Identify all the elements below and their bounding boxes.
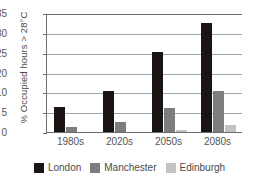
y-axis-tick-label: 0 [0,128,7,138]
bar-manchester-2050s [164,108,175,132]
legend-label: Edinburgh [180,163,226,173]
legend-label: Manchester [104,163,156,173]
y-axis-tick-label: 25 [0,49,7,59]
bar-groups [47,14,242,132]
y-axis-title: % Occupied hours > 28°C [18,0,29,138]
bar-london-2020s [103,91,114,132]
legend-label: London [48,163,81,173]
bar-edinburgh-2050s [176,130,187,132]
bar-london-1980s [54,107,65,133]
bar-edinburgh-2080s [225,125,236,132]
bar-manchester-2020s [115,122,126,132]
y-axis-tick-label: 30 [0,29,7,39]
bar-chart-figure: % Occupied hours > 28°C 051020253035 198… [0,0,259,191]
legend-swatch-edinburgh [166,163,176,173]
bar-group [47,14,96,132]
legend-swatch-manchester [90,163,100,173]
bar-group [96,14,145,132]
bar-group [145,14,194,132]
y-axis-tick-mark [43,133,47,134]
bar-manchester-1980s [66,127,77,132]
legend-swatch-london [34,163,44,173]
bar-london-2080s [201,23,212,132]
y-axis-tick-label: 5 [0,108,7,118]
x-axis-tick-label: 2080s [188,136,248,147]
y-axis-tick-label: 10 [0,88,7,98]
y-axis-tick-label: 35 [0,9,7,19]
bar-london-2050s [152,52,163,132]
bar-group [194,14,243,132]
chart-legend: LondonManchesterEdinburgh [0,163,259,173]
legend-item-london: London [34,163,81,173]
legend-item-edinburgh: Edinburgh [166,163,226,173]
plot-area [46,14,242,133]
y-axis-tick-label: 20 [0,69,7,79]
legend-item-manchester: Manchester [90,163,156,173]
bar-manchester-2080s [213,91,224,132]
